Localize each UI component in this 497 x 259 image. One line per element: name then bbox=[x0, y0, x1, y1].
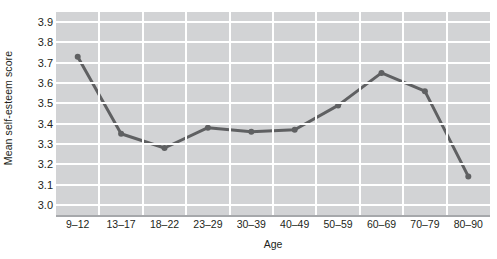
data-point-marker bbox=[465, 173, 471, 179]
x-axis-tick-label: 18–22 bbox=[150, 218, 179, 230]
y-axis-tick-label: 3.7 bbox=[38, 57, 53, 69]
y-axis-title: Mean self-esteem score bbox=[0, 0, 16, 215]
y-axis-tick-label: 3.3 bbox=[38, 138, 53, 150]
data-point-marker bbox=[422, 88, 428, 94]
line-chart: Mean self-esteem score 3.03.13.23.33.43.… bbox=[0, 0, 497, 259]
vertical-gridline bbox=[229, 12, 231, 215]
x-axis-tick-label: 13–17 bbox=[106, 218, 135, 230]
data-point-marker bbox=[162, 145, 168, 151]
vertical-gridline bbox=[142, 12, 144, 215]
x-axis-tick-label: 50–59 bbox=[323, 218, 352, 230]
y-axis-title-text: Mean self-esteem score bbox=[2, 50, 14, 164]
y-axis-tick-label: 3.0 bbox=[38, 199, 53, 211]
x-axis-tick-labels: 9–1213–1718–2223–2930–3940–4950–5960–697… bbox=[56, 218, 490, 236]
data-point-marker bbox=[118, 131, 124, 137]
data-point-marker bbox=[75, 54, 81, 60]
data-point-marker bbox=[205, 125, 211, 131]
y-axis-tick-label: 3.6 bbox=[38, 77, 53, 89]
vertical-gridline bbox=[185, 12, 187, 215]
y-axis-tick-label: 3.1 bbox=[38, 179, 53, 191]
y-axis-tick-label: 3.4 bbox=[38, 118, 53, 130]
data-point-marker bbox=[248, 129, 254, 135]
data-point-marker bbox=[292, 127, 298, 133]
x-axis-tick-label: 9–12 bbox=[66, 218, 89, 230]
x-axis-tick-label: 30–39 bbox=[237, 218, 266, 230]
vertical-gridline bbox=[359, 12, 361, 215]
data-point-marker bbox=[379, 70, 385, 76]
y-axis-tick-labels: 3.03.13.23.33.43.53.63.73.83.9 bbox=[18, 12, 56, 215]
vertical-gridline bbox=[272, 12, 274, 215]
vertical-gridline bbox=[315, 12, 317, 215]
x-axis-tick-label: 40–49 bbox=[280, 218, 309, 230]
x-axis-line bbox=[56, 215, 490, 217]
y-axis-tick-label: 3.9 bbox=[38, 16, 53, 28]
y-axis-tick-label: 3.2 bbox=[38, 158, 53, 170]
vertical-gridline bbox=[98, 12, 100, 215]
x-axis-title: Age bbox=[56, 238, 490, 250]
vertical-gridline bbox=[402, 12, 404, 215]
x-axis-tick-label: 70–79 bbox=[410, 218, 439, 230]
plot-area bbox=[56, 12, 490, 215]
y-axis-tick-label: 3.8 bbox=[38, 36, 53, 48]
x-axis-tick-label: 80–90 bbox=[454, 218, 483, 230]
x-axis-tick-label: 23–29 bbox=[193, 218, 222, 230]
vertical-gridline bbox=[446, 12, 448, 215]
y-axis-tick-label: 3.5 bbox=[38, 97, 53, 109]
x-axis-tick-label: 60–69 bbox=[367, 218, 396, 230]
